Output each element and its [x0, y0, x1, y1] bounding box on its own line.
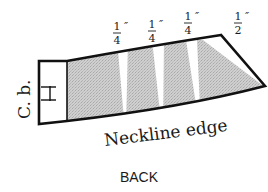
pattern-section-2: [126, 40, 162, 130]
piece-title: BACK: [120, 169, 159, 185]
spread-unit: ″: [245, 10, 250, 23]
spread-numerator: 1: [185, 10, 192, 23]
spread-denominator: 4: [149, 32, 156, 45]
spread-denominator: 4: [114, 34, 121, 47]
spread-numerator: 1: [114, 20, 121, 33]
neckline-edge-label: Neckline edge: [103, 115, 228, 150]
spread-unit: ″: [124, 20, 129, 33]
slash-spread-2: 1 4 ″: [148, 18, 164, 45]
center-back-label: C. b.: [14, 80, 34, 120]
spread-numerator: 1: [149, 18, 156, 31]
pattern-diagram: C. b. 1 4 ″ 1 4 ″ 1 4 ″ 1 2 ″ Neckline e…: [0, 0, 268, 192]
pattern-section-3: [163, 40, 200, 130]
slash-spread-4: 1 2 ″: [234, 10, 250, 37]
spread-unit: ″: [195, 10, 200, 23]
slash-spread-1: 1 4 ″: [113, 20, 129, 47]
spread-denominator: 4: [185, 24, 192, 37]
slash-spread-3: 1 4 ″: [184, 10, 200, 37]
spread-denominator: 2: [235, 24, 242, 37]
spread-numerator: 1: [235, 10, 242, 23]
center-back-fold-icon: [41, 86, 56, 101]
spread-unit: ″: [159, 18, 164, 31]
